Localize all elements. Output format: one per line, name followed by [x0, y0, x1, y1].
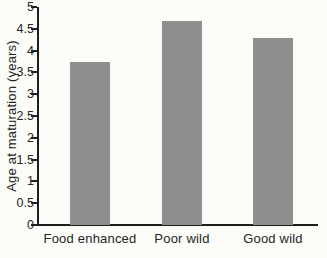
y-tick-label: 1.5	[6, 153, 34, 167]
y-tick-label: 2	[6, 131, 34, 145]
bar	[162, 21, 202, 225]
bar	[253, 38, 293, 225]
y-tick-label: 2.5	[6, 109, 34, 123]
bar-chart: Age at maturation (years) 00.511.522.533…	[0, 0, 327, 258]
y-tick-label: 4	[6, 44, 34, 58]
y-tick-label: 3	[6, 87, 34, 101]
category-label: Poor wild	[154, 231, 209, 246]
y-tick-label: 0.5	[6, 196, 34, 210]
category-label: Good wild	[243, 231, 303, 246]
y-tick-label: 4.5	[6, 22, 34, 36]
y-tick-label: 5	[6, 0, 34, 14]
category-label: Food enhanced	[44, 231, 137, 246]
bar	[70, 62, 110, 225]
y-tick-label: 0	[6, 218, 34, 232]
y-tick-label: 3.5	[6, 65, 34, 79]
y-tick-label: 1	[6, 174, 34, 188]
y-axis-line	[37, 7, 39, 226]
